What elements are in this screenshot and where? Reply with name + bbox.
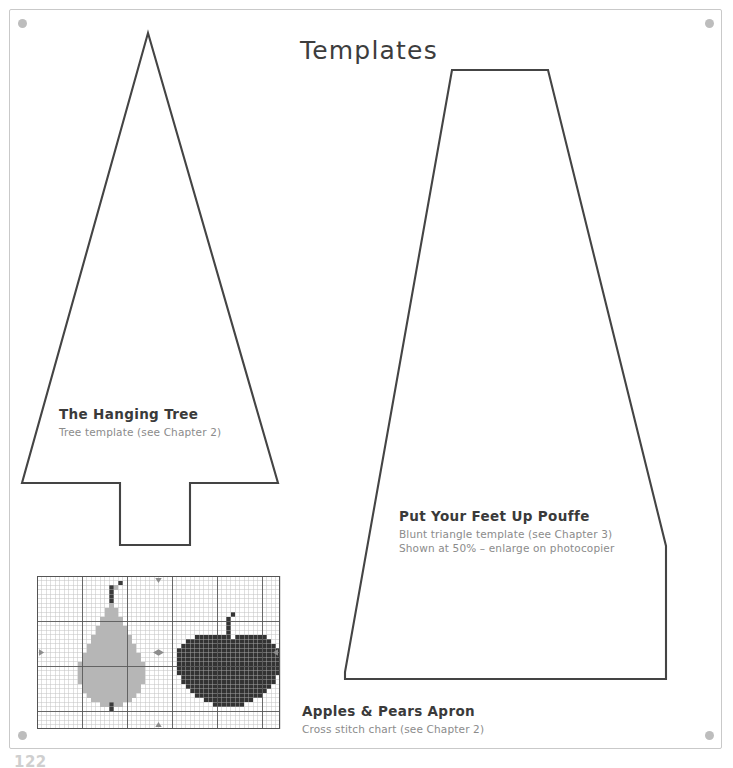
- pouffe-template-outline: [345, 70, 666, 679]
- caption-title: The Hanging Tree: [59, 406, 221, 422]
- caption-pouffe: Put Your Feet Up Pouffe Blunt triangle t…: [399, 508, 614, 555]
- cross-stitch-chart: [36, 576, 281, 729]
- caption-subtitle: Tree template (see Chapter 2): [59, 425, 221, 439]
- caption-subtitle: Blunt triangle template (see Chapter 3): [399, 527, 614, 541]
- caption-apron: Apples & Pears Apron Cross stitch chart …: [302, 703, 484, 736]
- caption-subtitle: Cross stitch chart (see Chapter 2): [302, 722, 484, 736]
- caption-hanging-tree: The Hanging Tree Tree template (see Chap…: [59, 406, 221, 439]
- cross-stitch-grid: [36, 576, 281, 729]
- page-canvas: Templates The Hanging Tree Tree template…: [0, 0, 733, 768]
- caption-title: Put Your Feet Up Pouffe: [399, 508, 614, 524]
- caption-title: Apples & Pears Apron: [302, 703, 484, 719]
- tree-template-outline: [22, 33, 278, 545]
- page-number: 122: [14, 753, 47, 768]
- caption-subtitle-2: Shown at 50% – enlarge on photocopier: [399, 541, 614, 555]
